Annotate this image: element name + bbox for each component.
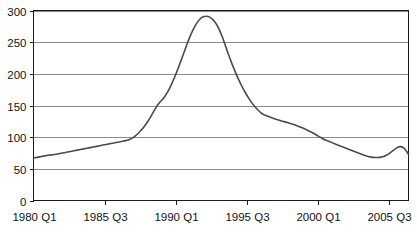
line-chart-figure: 050100150200250300 1980 Q11985 Q31990 Q1… <box>0 0 417 232</box>
y-axis-tick-label: 150 <box>7 101 26 113</box>
x-axis-tick-label: 1995 Q3 <box>225 211 269 223</box>
y-axis-tick-label: 300 <box>7 6 26 18</box>
x-axis-tick-label: 2000 Q1 <box>296 211 340 223</box>
x-axis-tick-label: 2005 Q3 <box>367 211 411 223</box>
y-axis-tick-label: 0 <box>20 196 26 208</box>
y-axis-tick-label: 250 <box>7 37 26 49</box>
y-axis-tick-label: 50 <box>14 164 27 176</box>
y-axis-tick-label: 200 <box>7 69 26 81</box>
x-axis-tick-label: 1990 Q1 <box>154 211 198 223</box>
figure-background <box>0 0 417 232</box>
chart-canvas: 050100150200250300 1980 Q11985 Q31990 Q1… <box>0 0 417 232</box>
x-axis-tick-label: 1980 Q1 <box>12 211 56 223</box>
y-axis-tick-label: 100 <box>7 132 26 144</box>
x-axis-tick-label: 1985 Q3 <box>83 211 127 223</box>
